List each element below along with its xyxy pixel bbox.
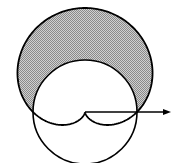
arrow-head-icon (163, 109, 171, 115)
polar-region-diagram (0, 0, 172, 163)
